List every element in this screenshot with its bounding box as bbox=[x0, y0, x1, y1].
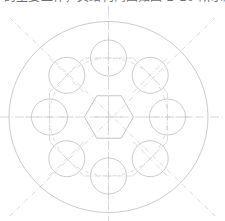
engineering-drawing bbox=[0, 0, 225, 221]
hole-upper-right-center-mark bbox=[116, 41, 184, 109]
hole-lower-right-center-mark bbox=[116, 125, 184, 193]
figure-caption: 的主要工作，其结构简图如图 2-10 所示。 bbox=[4, 0, 225, 4]
hole-upper-left-center-mark bbox=[33, 41, 101, 109]
center-mark-group bbox=[26, 34, 192, 200]
drawing-canvas: 的主要工作，其结构简图如图 2-10 所示。 bbox=[0, 0, 225, 221]
centerline-group bbox=[0, 6, 225, 221]
origin-center-mark bbox=[95, 103, 123, 131]
hole-lower-left-center-mark bbox=[33, 125, 101, 193]
caption-strip: 的主要工作，其结构简图如图 2-10 所示。 bbox=[0, 0, 225, 11]
